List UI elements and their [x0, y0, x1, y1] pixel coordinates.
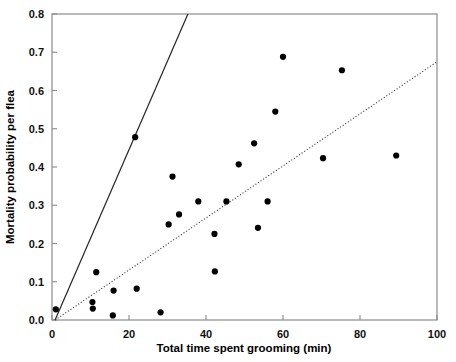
y-tick-label: 0.2: [29, 238, 44, 250]
x-axis-title: Total time spent grooming (min): [157, 342, 332, 354]
data-point: [111, 287, 117, 293]
y-tick-label: 0.4: [29, 161, 45, 173]
data-point: [157, 309, 163, 315]
data-point: [132, 134, 138, 140]
data-point: [251, 140, 257, 146]
y-tick-label: 0.7: [29, 46, 44, 58]
data-point: [169, 173, 175, 179]
y-axis-tick-labels: 0.00.10.20.30.40.50.60.70.8: [29, 8, 45, 326]
solid-fit-line: [55, 14, 188, 320]
y-axis-title: Mortality probability per flea: [4, 89, 16, 244]
data-point: [93, 269, 99, 275]
data-point: [211, 231, 217, 237]
data-point: [195, 198, 201, 204]
data-point: [166, 221, 172, 227]
axes-border: [52, 14, 437, 320]
data-point: [236, 161, 242, 167]
data-point: [89, 299, 95, 305]
y-tick-label: 0.0: [29, 314, 44, 326]
x-tick-label: 60: [277, 328, 289, 340]
data-point: [320, 155, 326, 161]
data-point: [393, 152, 399, 158]
data-point: [53, 306, 59, 312]
data-point: [134, 286, 140, 292]
data-point: [339, 67, 345, 73]
scatter-plot-figure: 0.00.10.20.30.40.50.60.70.8 020406080100…: [0, 0, 456, 362]
data-point: [212, 268, 218, 274]
data-point: [280, 54, 286, 60]
x-tick-label: 20: [123, 328, 135, 340]
fit-line-group: [55, 14, 437, 320]
chart-canvas: 0.00.10.20.30.40.50.60.70.8 020406080100…: [0, 0, 456, 362]
data-point: [90, 305, 96, 311]
dotted-fit-line: [55, 62, 437, 320]
x-tick-label: 100: [428, 328, 446, 340]
y-tick-label: 0.5: [29, 123, 44, 135]
y-tick-label: 0.1: [29, 276, 44, 288]
data-point: [265, 198, 271, 204]
data-point: [272, 108, 278, 114]
x-tick-label: 40: [200, 328, 212, 340]
plot-frame: [52, 14, 437, 320]
y-tick-label: 0.3: [29, 199, 44, 211]
data-point: [176, 211, 182, 217]
x-axis-tick-labels: 020406080100: [49, 328, 446, 340]
data-point: [110, 312, 116, 318]
data-point-group: [53, 54, 400, 319]
data-point: [255, 225, 261, 231]
y-tick-label: 0.6: [29, 85, 44, 97]
data-point: [223, 198, 229, 204]
tick-mark-group: [52, 14, 437, 320]
x-tick-label: 0: [49, 328, 55, 340]
y-tick-label: 0.8: [29, 8, 44, 20]
x-tick-label: 80: [354, 328, 366, 340]
